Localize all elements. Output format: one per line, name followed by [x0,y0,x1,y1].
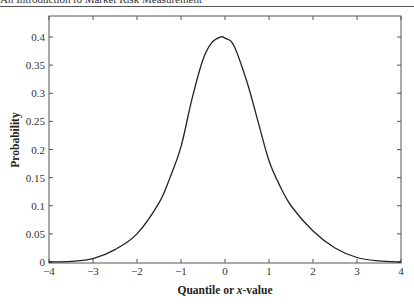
x-tick-label: −3 [87,265,99,277]
x-tick-label: −2 [131,265,143,277]
y-tick-label: 0.1 [31,200,45,212]
y-axis-title: Probability [9,112,22,168]
y-axis-ticks: 00.050.10.150.20.250.30.350.4 [26,31,401,268]
y-tick-label: 0.05 [26,228,46,240]
x-tick-label: 3 [354,265,360,277]
x-tick-label: 0 [222,265,228,277]
plot-frame [49,16,401,263]
density-curve [49,37,401,262]
density-chart: 00.050.10.150.20.250.30.350.4 −4−3−2−101… [0,0,414,308]
x-axis-ticks: −4−3−2−101234 [43,16,404,277]
x-tick-label: −4 [43,265,55,277]
x-tick-label: 4 [398,265,404,277]
x-tick-label: −1 [175,265,187,277]
y-tick-label: 0.25 [26,115,46,127]
y-tick-label: 0.15 [26,172,46,184]
y-tick-label: 0.2 [31,144,45,156]
x-tick-label: 2 [310,265,316,277]
x-axis-title: Quantile or x-value [178,284,273,296]
x-axis-title-part-1: Quantile or [178,284,237,296]
x-axis-title-part-3: -value [242,284,272,296]
y-tick-label: 0.35 [26,59,46,71]
y-tick-label: 0.3 [31,87,45,99]
x-tick-label: 1 [266,265,272,277]
y-tick-label: 0.4 [31,31,45,43]
